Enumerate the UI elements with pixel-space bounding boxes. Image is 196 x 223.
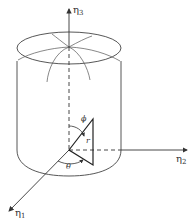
eta3-label: η3 — [73, 5, 83, 17]
axes — [9, 9, 187, 211]
eta1-label: η1 — [15, 208, 25, 220]
radius-label: r — [86, 137, 90, 145]
phi-label: ϕ — [81, 115, 86, 123]
angle-arcs — [58, 126, 84, 164]
theta-label: θ — [66, 163, 71, 171]
cylinder-coordinate-diagram — [0, 0, 196, 223]
eta1-axis — [9, 150, 69, 211]
eta2-label: η2 — [176, 154, 186, 166]
